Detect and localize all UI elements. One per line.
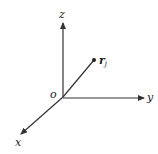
x-axis (21, 97, 63, 134)
origin-label: o (50, 89, 57, 100)
y-axis-label: y (147, 92, 153, 103)
axes-graphic (0, 0, 158, 154)
x-axis-label: x (15, 137, 21, 148)
z-axis-label: z (59, 9, 65, 20)
vector-label: rj (99, 55, 107, 68)
position-vector (63, 60, 94, 97)
point-marker (92, 58, 96, 62)
coordinate-diagram: z y x o rj (0, 0, 158, 154)
vector-label-subscript: j (105, 60, 107, 68)
